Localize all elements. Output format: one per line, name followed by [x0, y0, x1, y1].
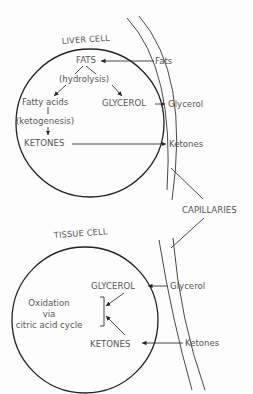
oxidation-line1: Oxidation [28, 298, 69, 308]
liver-glycerol-label: GLYCEROL [102, 98, 146, 108]
fat-metabolism-diagram: LIVER CELL FATS (hydrolysis) Fatty acids… [0, 0, 253, 394]
fatty-acids-label: Fatty acids [22, 97, 69, 107]
hydrolysis-label: (hydrolysis) [59, 74, 109, 84]
lower-capillary-wall-outer [173, 238, 205, 390]
arrow-to-fatty-acids [54, 85, 66, 96]
oxidation-line3: citric acid cycle [16, 320, 83, 330]
liver-fats-label: FATS [76, 55, 96, 65]
lower-capillary-ketones-label: Ketones [185, 338, 220, 348]
capillary-fats-label: Fats [155, 56, 173, 66]
fats-branch-right [86, 66, 96, 74]
capillary-glycerol-label: Glycerol [168, 99, 203, 109]
arrow-glycerol-to-oxidation [106, 293, 124, 306]
capillaries-pointer-lower [171, 218, 204, 248]
lower-capillary-glycerol-label: Glycerol [170, 281, 205, 291]
capillary-ketones-label: Ketones [169, 139, 204, 149]
ketogenesis-label: (ketogenesis) [16, 116, 74, 126]
oxidation-bracket [100, 297, 104, 326]
tissue-ketones-label: KETONES [90, 339, 130, 349]
capillaries-pointer-upper [171, 168, 203, 199]
arrow-ketones-to-oxidation [106, 316, 125, 335]
liver-ketones-label: KETONES [24, 138, 64, 148]
tissue-cell-title: TISSUE CELL [52, 226, 108, 240]
capillaries-label: CAPILLARIES [182, 205, 237, 215]
tissue-glycerol-label: GLYCEROL [91, 281, 135, 291]
arrow-to-glycerol [112, 85, 122, 96]
oxidation-line2: via [43, 309, 56, 319]
fats-branch-left [75, 66, 83, 74]
liver-cell-title: LIVER CELL [61, 33, 110, 46]
